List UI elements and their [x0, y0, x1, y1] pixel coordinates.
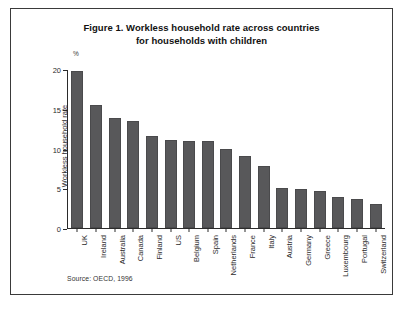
x-axis-tick-label: Germany: [304, 235, 313, 266]
bar: [295, 189, 307, 228]
x-axis-tick-mark: [356, 228, 357, 232]
x-axis-tick-label: Netherlands: [229, 235, 238, 275]
x-axis-tick-label: Australia: [118, 235, 127, 264]
x-axis-tick-mark: [319, 228, 320, 232]
bar-group: Luxembourg: [329, 63, 348, 228]
bar-series: UKIrelandAustraliaCanadaFinlandUSBelgium…: [68, 63, 385, 228]
y-axis-tick-label: 20: [53, 66, 61, 75]
x-axis-tick-mark: [245, 228, 246, 232]
x-axis-tick-label: US: [174, 235, 183, 245]
figure-title-line-2: for households with children: [11, 34, 392, 47]
x-axis-tick-mark: [226, 228, 227, 232]
bar-group: Switzerland: [366, 63, 385, 228]
bar-group: US: [161, 63, 180, 228]
x-axis-tick-label: Portugal: [360, 235, 369, 263]
bar: [90, 105, 102, 228]
bar: [71, 71, 83, 228]
y-axis-tick-label: 5: [57, 185, 61, 194]
y-axis-tick-label: 0: [57, 225, 61, 234]
y-axis-tick-mark: [63, 189, 67, 190]
plot-area: Workless household rate % 05101520 UKIre…: [67, 63, 387, 229]
bar-group: Spain: [198, 63, 217, 228]
x-axis-tick-mark: [375, 228, 376, 232]
y-axis-tick-mark: [63, 150, 67, 151]
bar: [127, 121, 139, 228]
bar: [276, 188, 288, 228]
bar-group: Finland: [143, 63, 162, 228]
x-axis-tick-label: UK: [80, 235, 89, 245]
bar: [370, 204, 382, 228]
x-axis-tick-mark: [170, 228, 171, 232]
x-axis-tick-label: Belgium: [192, 235, 201, 262]
bar: [314, 191, 326, 228]
figure-title: Figure 1. Workless household rate across…: [11, 21, 392, 47]
x-axis-tick-label: Spain: [211, 235, 220, 254]
x-axis-tick-label: Switzerland: [379, 235, 388, 274]
y-axis-tick-mark: [63, 70, 67, 71]
x-axis-tick-mark: [338, 228, 339, 232]
bar-group: Italy: [254, 63, 273, 228]
x-axis-tick-label: Greece: [323, 235, 332, 260]
figure-frame: Figure 1. Workless household rate across…: [10, 8, 393, 295]
bar-group: Canada: [124, 63, 143, 228]
bar-group: Germany: [292, 63, 311, 228]
x-axis-tick-mark: [263, 228, 264, 232]
bar: [109, 118, 121, 229]
x-axis-tick-mark: [114, 228, 115, 232]
x-axis-tick-mark: [133, 228, 134, 232]
bar-group: Austria: [273, 63, 292, 228]
bar: [239, 156, 251, 228]
x-axis-tick-mark: [207, 228, 208, 232]
bar-group: Netherlands: [217, 63, 236, 228]
bar: [258, 166, 270, 228]
bar: [351, 199, 363, 228]
x-axis-tick-label: Finland: [155, 235, 164, 260]
bar-group: Belgium: [180, 63, 199, 228]
bar-group: France: [236, 63, 255, 228]
y-axis-unit-label: %: [73, 50, 79, 57]
figure-title-line-1: Figure 1. Workless household rate across…: [11, 21, 392, 34]
y-axis-tick-label: 10: [53, 145, 61, 154]
y-axis-tick-mark: [63, 110, 67, 111]
x-axis-tick-mark: [77, 228, 78, 232]
bar-group: Australia: [105, 63, 124, 228]
x-axis-tick-mark: [282, 228, 283, 232]
x-axis-tick-label: Canada: [136, 235, 145, 261]
bar: [202, 141, 214, 228]
x-axis-tick-label: France: [248, 235, 257, 258]
bar-group: Ireland: [87, 63, 106, 228]
x-axis-tick-mark: [95, 228, 96, 232]
source-note: Source: OECD, 1996: [67, 275, 133, 282]
bar: [332, 197, 344, 228]
x-axis-tick-label: Luxembourg: [341, 235, 350, 277]
x-axis-tick-label: Ireland: [99, 235, 108, 258]
y-axis-tick-mark: [63, 229, 67, 230]
bar-group: Greece: [310, 63, 329, 228]
bar: [220, 149, 232, 229]
bar: [146, 136, 158, 228]
x-axis-tick-label: Austria: [285, 235, 294, 258]
bar-group: Portugal: [348, 63, 367, 228]
bar: [165, 140, 177, 228]
y-axis-tick-label: 15: [53, 105, 61, 114]
x-axis-tick-mark: [189, 228, 190, 232]
x-axis-tick-label: Italy: [267, 235, 276, 249]
x-axis-tick-mark: [301, 228, 302, 232]
bar-group: UK: [68, 63, 87, 228]
bar: [183, 141, 195, 228]
x-axis-tick-mark: [151, 228, 152, 232]
